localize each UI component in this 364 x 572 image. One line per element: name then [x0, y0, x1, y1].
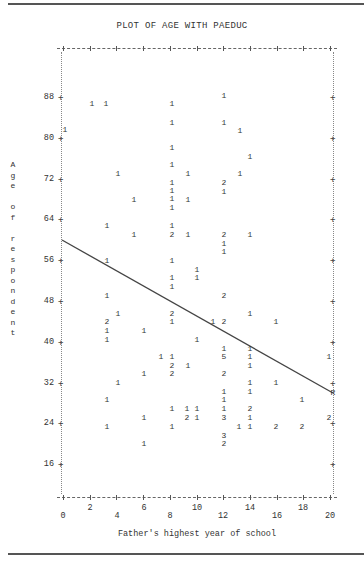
data-point: 2 [103, 318, 111, 326]
y-axis-title-char [9, 223, 17, 234]
data-point: 1 [220, 248, 228, 256]
y-tick-mark: + [58, 134, 63, 143]
data-point: 1 [220, 92, 228, 100]
data-point: 2 [325, 414, 333, 422]
data-point: 2 [220, 318, 228, 326]
data-point: 1 [102, 100, 110, 108]
data-point: 1 [183, 405, 191, 413]
y-tick-mark: + [330, 460, 335, 469]
regression-endpoint-label: R [329, 389, 337, 397]
data-point: 1 [168, 257, 176, 265]
data-point: 1 [103, 222, 111, 230]
y-axis-title-char: e [9, 181, 17, 192]
y-tick-mark: + [330, 175, 335, 184]
data-point: 1 [168, 144, 176, 152]
x-tick-mark [63, 46, 64, 51]
y-axis-title-char: e [9, 244, 17, 255]
data-point: 1 [168, 318, 176, 326]
data-point: 1 [246, 414, 254, 422]
y-axis-title-char: d [9, 297, 17, 308]
data-point: 1 [168, 274, 176, 282]
data-point: 1 [246, 353, 254, 361]
data-point: 1 [61, 126, 69, 134]
x-tick-mark [303, 495, 304, 500]
x-tick-mark [277, 495, 278, 500]
y-tick-mark: + [330, 93, 335, 102]
data-point: 1 [168, 204, 176, 212]
scatter-plot: 88 80 72 64 56 48 40 32 24 16 2 6 10 14 … [0, 0, 364, 572]
data-point: 1 [220, 396, 228, 404]
data-point: 2 [220, 370, 228, 378]
data-point: 1 [220, 405, 228, 413]
data-point: 1 [168, 100, 176, 108]
x-tick-mark [116, 46, 117, 51]
data-point: 1 [168, 119, 176, 127]
data-point: 1 [184, 362, 192, 370]
y-axis-title-char: p [9, 265, 17, 276]
data-point: 1 [246, 231, 254, 239]
data-point: 1 [114, 310, 122, 318]
x-tick-mark [197, 46, 198, 51]
data-point: 1 [325, 353, 333, 361]
y-axis-title-char: n [9, 318, 17, 329]
x-tick-mark [330, 495, 331, 500]
x-tick-mark [63, 495, 64, 500]
data-point: 1 [184, 231, 192, 239]
x-tick-mark [223, 46, 224, 51]
y-axis-title-char [9, 192, 17, 203]
data-point: 1 [220, 188, 228, 196]
data-point: 1 [184, 170, 192, 178]
data-point: 1 [130, 196, 138, 204]
y-axis-title-char: o [9, 276, 17, 287]
data-point: 1 [235, 423, 243, 431]
data-point: 2 [298, 423, 306, 431]
data-point: 2 [168, 370, 176, 378]
data-point: 1 [140, 414, 148, 422]
x-tick-mark [143, 495, 144, 500]
x-tick-mark [250, 495, 251, 500]
data-point: 1 [168, 353, 176, 361]
data-point: 1 [140, 440, 148, 448]
y-tick-mark: + [58, 297, 63, 306]
data-point: 1 [103, 292, 111, 300]
y-axis-title-char: t [9, 328, 17, 339]
y-tick-mark: + [58, 175, 63, 184]
y-axis-title-char: s [9, 255, 17, 266]
data-point: 1 [130, 231, 138, 239]
data-point: 1 [168, 195, 176, 203]
data-point: 1 [272, 318, 280, 326]
y-tick-mark: + [58, 93, 63, 102]
data-point: 1 [103, 336, 111, 344]
y-axis-title-char: g [9, 171, 17, 182]
y-axis-title-char: e [9, 307, 17, 318]
data-point: 1 [184, 196, 192, 204]
data-point: 1 [246, 153, 254, 161]
bottom-rule [8, 553, 364, 555]
y-tick-mark: + [330, 379, 335, 388]
data-point: 1 [220, 119, 228, 127]
data-point: 1 [168, 283, 176, 291]
data-point: 2 [220, 231, 228, 239]
data-point: 1 [193, 336, 201, 344]
data-point: 1 [193, 274, 201, 282]
x-tick-mark [116, 495, 117, 500]
y-tick-mark: + [58, 338, 63, 347]
y-tick-mark: + [330, 256, 335, 265]
data-point: 2 [183, 414, 191, 422]
data-point: 2 [168, 231, 176, 239]
data-point: 1 [103, 423, 111, 431]
y-tick-mark: + [58, 460, 63, 469]
data-point: 1 [246, 379, 254, 387]
data-point: 1 [114, 170, 122, 178]
x-tick-mark [277, 46, 278, 51]
data-point: 1 [168, 423, 176, 431]
data-point: 1 [168, 161, 176, 169]
data-point: 2 [246, 405, 254, 413]
x-tick-mark [90, 46, 91, 51]
x-tick-mark [330, 46, 331, 51]
data-point: 1 [157, 353, 165, 361]
data-point: 2 [220, 292, 228, 300]
data-point: 1 [88, 100, 96, 108]
data-point: 1 [193, 405, 201, 413]
x-tick-mark [223, 495, 224, 500]
